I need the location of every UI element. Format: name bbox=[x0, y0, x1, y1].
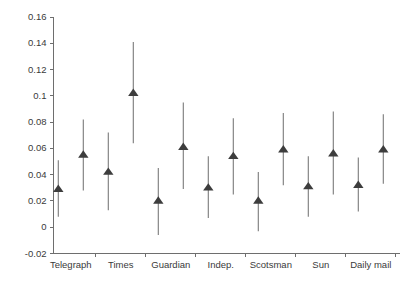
y-tick-label: 0.08 bbox=[28, 116, 47, 127]
x-tick-label: Indep. bbox=[208, 259, 234, 270]
x-axis-labels: TelegraphTimesGuardianIndep.ScotsmanSunD… bbox=[50, 259, 391, 270]
data-point-marker bbox=[153, 196, 163, 203]
y-tick-label: 0.06 bbox=[28, 142, 47, 153]
y-tick-label: 0.14 bbox=[28, 37, 47, 48]
data-point-marker bbox=[303, 182, 313, 189]
x-tick-label: Scotsman bbox=[250, 259, 292, 270]
data-point-marker bbox=[328, 149, 338, 156]
x-tick-label: Telegraph bbox=[50, 259, 92, 270]
chart-container: -0.0200.020.040.060.080.10.120.140.16 Te… bbox=[0, 0, 410, 282]
x-tick-label: Guardian bbox=[151, 259, 190, 270]
x-tick-label: Sun bbox=[312, 259, 329, 270]
y-tick-label: 0.02 bbox=[28, 195, 47, 206]
y-axis-ticks: -0.0200.020.040.060.080.10.120.140.16 bbox=[25, 11, 54, 259]
data-point-marker bbox=[178, 142, 188, 149]
data-point-marker bbox=[378, 145, 388, 152]
data-series bbox=[53, 42, 388, 235]
data-point-marker bbox=[203, 183, 213, 190]
y-tick-label: 0 bbox=[41, 221, 46, 232]
y-tick-label: 0.1 bbox=[33, 90, 46, 101]
data-point-marker bbox=[128, 89, 138, 96]
error-bar-plot: -0.0200.020.040.060.080.10.120.140.16 Te… bbox=[0, 0, 410, 282]
y-tick-label: 0.04 bbox=[28, 169, 47, 180]
x-axis-ticks bbox=[96, 254, 396, 258]
data-point-marker bbox=[53, 185, 63, 192]
data-point-marker bbox=[103, 167, 113, 174]
data-point-marker bbox=[278, 145, 288, 152]
data-point-marker bbox=[78, 150, 88, 157]
data-point-marker bbox=[253, 196, 263, 203]
x-tick-label: Daily mail bbox=[350, 259, 391, 270]
y-tick-label: 0.16 bbox=[28, 11, 47, 22]
y-tick-label: 0.12 bbox=[28, 64, 47, 75]
data-point-marker bbox=[353, 181, 363, 188]
data-point-marker bbox=[228, 152, 238, 159]
y-tick-label: -0.02 bbox=[25, 248, 47, 259]
x-tick-label: Times bbox=[108, 259, 134, 270]
